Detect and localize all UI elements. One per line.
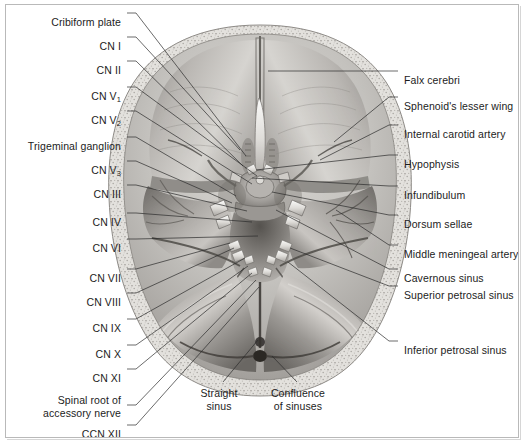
- label-internal-carotid-artery: Internal carotid artery: [404, 128, 506, 141]
- label-cn-v3: CN V3: [91, 164, 121, 181]
- label-text: Falx cerebri: [404, 74, 460, 86]
- label-cn-8: CN VIII: [86, 296, 121, 309]
- label-text: Middle meningeal artery: [404, 248, 518, 260]
- label-text: CN V: [91, 164, 117, 176]
- label-text: Cavernous sinus: [404, 272, 484, 284]
- label-spinal-root-accessory: Spinal root ofaccessory nerve: [43, 394, 121, 419]
- label-cn-3: CN III: [94, 188, 121, 201]
- label-straight-sinus: Straightsinus: [201, 387, 238, 412]
- label-cn-v1: CN V1: [91, 90, 121, 107]
- label-infundibulum: Infundibulum: [404, 189, 465, 202]
- label-text: Inferior petrosal sinus: [404, 344, 507, 356]
- label-text: Infundibulum: [404, 189, 465, 201]
- label-text: Sphenoid's lesser wing: [404, 100, 513, 112]
- label-text: Spinal root of: [58, 394, 121, 406]
- label-cribiform-plate: Cribiform plate: [51, 16, 121, 29]
- label-superior-petrosal-sinus: Superior petrosal sinus: [404, 289, 514, 302]
- label-text: CN V: [91, 90, 117, 102]
- anatomy-figure: Cribiform plateCN ICN IICN V1CN V2Trigem…: [0, 0, 526, 446]
- label-dorsum-sellae: Dorsum sellae: [404, 218, 472, 231]
- label-text: Hypophysis: [404, 158, 459, 170]
- label-text: Cribiform plate: [51, 16, 121, 28]
- label-cn-2: CN II: [97, 64, 121, 77]
- label-text: CN X: [96, 348, 122, 360]
- label-sphenoids-lesser-wing: Sphenoid's lesser wing: [404, 100, 513, 113]
- label-text: CN IV: [92, 216, 121, 228]
- label-text: Internal carotid artery: [404, 128, 506, 140]
- label-text: Straight: [201, 387, 238, 399]
- label-text-line2: of sinuses: [274, 400, 322, 412]
- label-cn-6: CN VI: [92, 242, 121, 255]
- label-text-line2: accessory nerve: [43, 407, 121, 419]
- label-text: CN V: [91, 114, 117, 126]
- label-text: Trigeminal ganglion: [28, 140, 121, 152]
- label-text: CCN XII: [82, 428, 121, 440]
- label-text: Superior petrosal sinus: [404, 289, 514, 301]
- infundibulum: [256, 176, 264, 184]
- label-cn-9: CN IX: [92, 322, 121, 335]
- label-inferior-petrosal-sinus: Inferior petrosal sinus: [404, 344, 507, 357]
- label-text: CN VIII: [86, 296, 121, 308]
- label-falx-cerebri: Falx cerebri: [404, 74, 460, 87]
- label-text: CN IX: [92, 322, 121, 334]
- confluence-of-sinuses: [253, 350, 267, 362]
- label-text-line2: sinus: [206, 400, 231, 412]
- label-cn-1: CN I: [100, 40, 121, 53]
- label-text: CN I: [100, 40, 121, 52]
- label-cn-v2: CN V2: [91, 114, 121, 131]
- label-middle-meningeal-artery: Middle meningeal artery: [404, 248, 518, 261]
- label-text: CN XI: [92, 372, 121, 384]
- label-text: CN II: [97, 64, 121, 76]
- label-text: CN VI: [92, 242, 121, 254]
- label-subscript: 2: [117, 119, 121, 128]
- label-subscript: 3: [117, 169, 121, 178]
- label-text: Dorsum sellae: [404, 218, 472, 230]
- label-text: Confluence: [271, 387, 325, 399]
- label-cn-11: CN XI: [92, 372, 121, 385]
- label-cn-4: CN IV: [92, 216, 121, 229]
- label-cn-10: CN X: [96, 348, 122, 361]
- label-trigeminal-ganglion: Trigeminal ganglion: [28, 140, 121, 153]
- label-text: CN III: [94, 188, 121, 200]
- label-subscript: 1: [117, 95, 121, 104]
- label-confluence-sinuses: Confluenceof sinuses: [271, 387, 325, 412]
- label-text: CN VII: [89, 272, 121, 284]
- label-cn-7: CN VII: [89, 272, 121, 285]
- label-hypophysis: Hypophysis: [404, 158, 459, 171]
- label-ccn-12: CCN XII: [82, 428, 121, 441]
- label-cavernous-sinus: Cavernous sinus: [404, 272, 484, 285]
